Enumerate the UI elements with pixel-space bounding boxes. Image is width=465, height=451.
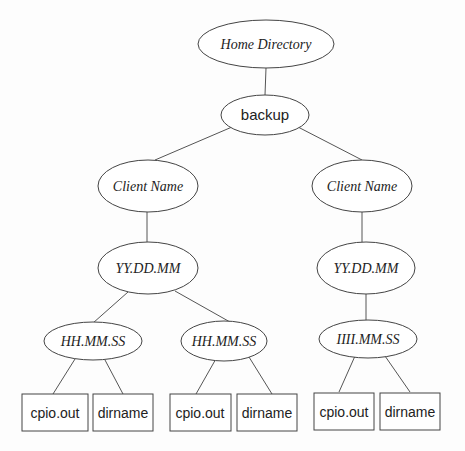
client-name-left-label: Client Name [113, 179, 183, 194]
time-left-label: HH.MM.SS [60, 334, 126, 349]
node-time-mid: HH.MM.SS [181, 321, 267, 361]
file-2-label: dirname [98, 405, 149, 421]
node-time-right: IIII.MM.SS [319, 320, 417, 358]
edge-time-left-file-1 [53, 359, 75, 394]
file-6-label: dirname [385, 404, 436, 420]
file-5-label: cpio.out [319, 404, 368, 420]
node-file-5: cpio.out [314, 393, 374, 430]
client-name-right-label: Client Name [327, 179, 397, 194]
time-right-label: IIII.MM.SS [336, 332, 400, 347]
date-right-label: YY.DD.MM [334, 261, 400, 276]
directory-tree-diagram: Home Directory backup Client Name Client… [0, 0, 465, 451]
edge-home-backup [265, 68, 266, 95]
node-time-left: HH.MM.SS [44, 322, 142, 360]
node-client-name-right: Client Name [312, 160, 412, 212]
time-mid-label: HH.MM.SS [191, 334, 257, 349]
file-1-label: cpio.out [30, 405, 79, 421]
node-file-4: dirname [237, 394, 297, 431]
node-date-right: YY.DD.MM [317, 242, 415, 294]
edge-time-mid-file-3 [196, 357, 217, 394]
edge-time-right-file-6 [385, 356, 410, 392]
node-backup: backup [221, 95, 309, 135]
edge-date-left-time-left [93, 292, 128, 323]
node-client-name-left: Client Name [98, 160, 198, 212]
edge-time-left-file-2 [105, 360, 123, 394]
edge-time-mid-file-4 [249, 357, 272, 394]
node-file-3: cpio.out [170, 394, 231, 431]
date-left-label: YY.DD.MM [116, 261, 182, 276]
edge-time-right-file-5 [339, 356, 355, 392]
node-file-6: dirname [380, 393, 440, 430]
edge-backup-client-right [298, 127, 362, 160]
home-directory-label: Home Directory [220, 37, 313, 52]
node-file-1: cpio.out [22, 394, 88, 431]
node-date-left: YY.DD.MM [98, 242, 198, 294]
backup-label: backup [241, 106, 289, 123]
edge-date-left-time-mid [175, 291, 230, 322]
node-file-2: dirname [93, 394, 153, 431]
file-3-label: cpio.out [175, 405, 224, 421]
edge-backup-client-left [155, 127, 232, 160]
file-4-label: dirname [242, 405, 293, 421]
diagram-canvas: Home Directory backup Client Name Client… [0, 0, 465, 451]
node-home-directory: Home Directory [198, 20, 334, 68]
